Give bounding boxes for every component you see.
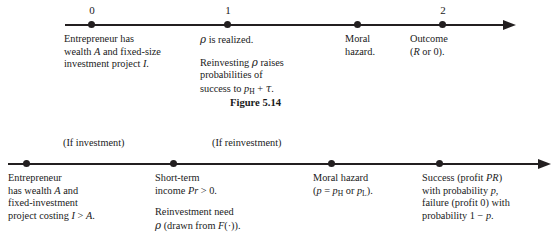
top-tick-label-2: 2 [427,4,459,16]
paragraph: Moral hazard. [345,33,375,58]
bottom-node-text-short-term-income: Short-term income Pr > 0. Reinvestment n… [155,172,241,232]
line: failure (profit 0) with [422,197,510,210]
top-node-dot-1 [224,21,231,28]
paragraph: Entrepreneur has wealth A and fixed-size… [64,33,161,71]
line: Reinvestment need [155,206,241,219]
line: has wealth A and [8,185,95,198]
bottom-node-dot-moral-hazard [328,160,335,167]
line: income Pr > 0. [155,185,241,198]
bottom-node-text-investment: Entrepreneur has wealth A and fixed-inve… [8,172,95,222]
line: Success (profit PR) [422,172,510,185]
figure-5-14: 0 1 2 Entrepreneur has wealth A and fixe… [0,0,556,242]
branch-label-if-investment: (If investment) [63,137,124,149]
line: success to pH + τ. [200,82,284,98]
paragraph: Success (profit PR) with probability p, … [422,172,510,222]
paragraph: Short-term income Pr > 0. [155,172,241,197]
line: probabilities of [200,69,284,82]
paragraph: Reinvesting ρ raises probabilities of su… [200,56,284,98]
bottom-node-dot-short-term-income [170,160,177,167]
bottom-node-dot-investment [23,160,30,167]
line: (p = pH or pL). [313,185,373,200]
bottom-timeline-arrowhead [538,159,551,169]
top-node-text-moral-hazard: Moral hazard. [345,33,375,58]
paragraph: Outcome (R or 0). [410,33,448,58]
top-node-dot-moral-hazard [354,21,361,28]
top-tick-label-0: 0 [76,4,108,16]
line: ρ (drawn from F(·)). [155,219,241,233]
top-node-text-date-1: ρ is realized. Reinvesting ρ raises prob… [200,33,284,98]
line: Entrepreneur [8,172,95,185]
bottom-node-text-moral-hazard: Moral hazard (p = pH or pL). [313,172,373,200]
top-tick-label-1: 1 [212,4,244,16]
line: Entrepreneur has [64,33,161,46]
top-node-text-date-2: Outcome (R or 0). [410,33,448,58]
line: with probability p, [422,185,510,198]
paragraph: Entrepreneur has wealth A and fixed-inve… [8,172,95,222]
line: hazard. [345,46,375,59]
bottom-timeline-axis [8,163,541,165]
bottom-node-dot-success [436,160,443,167]
line: project costing I > A. [8,210,95,223]
line: Moral hazard [313,172,373,185]
bottom-node-text-success: Success (profit PR) with probability p, … [422,172,510,222]
line: Short-term [155,172,241,185]
top-timeline-arrowhead [503,20,516,30]
paragraph: ρ is realized. [200,33,284,47]
paragraph: Reinvestment need ρ (drawn from F(·)). [155,206,241,232]
figure-caption: Figure 5.14 [230,97,281,108]
branch-label-if-reinvestment: (If reinvestment) [212,137,281,149]
line: fixed-investment [8,197,95,210]
top-node-dot-0 [88,21,95,28]
paragraph: Moral hazard (p = pH or pL). [313,172,373,200]
top-node-text-date-0: Entrepreneur has wealth A and fixed-size… [64,33,161,71]
line: ρ is realized. [200,33,284,47]
line: Moral [345,33,375,46]
line: (R or 0). [410,46,448,59]
line: Reinvesting ρ raises [200,56,284,70]
line: probability 1 − p. [422,210,510,223]
top-node-dot-2 [439,21,446,28]
line: investment project I. [64,58,161,71]
line: wealth A and fixed-size [64,46,161,59]
line: Outcome [410,33,448,46]
